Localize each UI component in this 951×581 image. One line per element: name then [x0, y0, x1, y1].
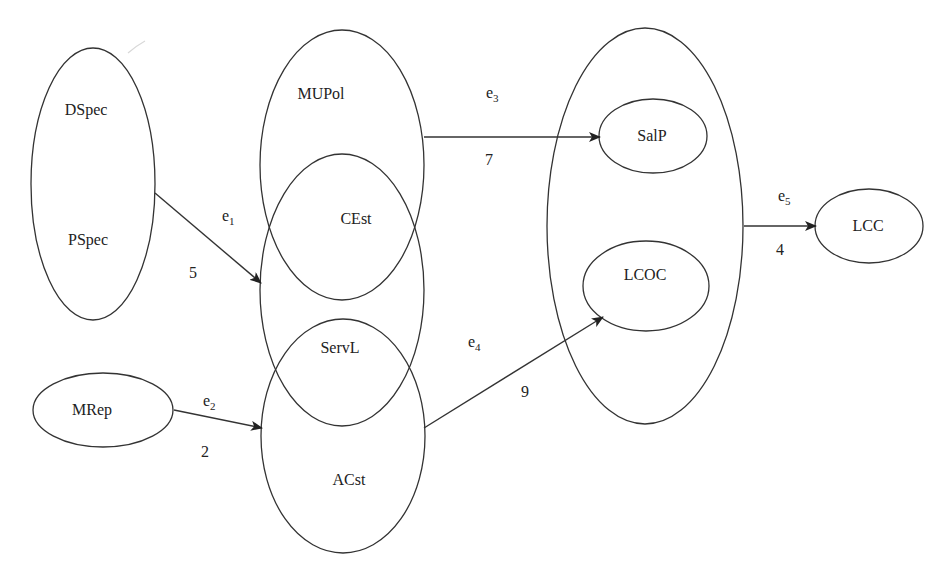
edge-e5: e54: [744, 187, 816, 258]
label-dspec: DSpec: [65, 101, 108, 119]
edge-name-e3: e3: [486, 84, 499, 104]
edge-e2: e22: [174, 392, 262, 460]
edge-e1: e15: [155, 193, 261, 283]
spec-group-ellipse: [31, 48, 155, 320]
edge-name-e1: e1: [222, 207, 235, 227]
label-servl: ServL: [320, 339, 359, 356]
edge-weight-e4: 9: [521, 383, 529, 400]
edge-e3: e37: [424, 84, 600, 168]
label-acst: ACst: [333, 471, 366, 488]
scan-artifact: [128, 41, 145, 53]
node-labels: DSpecPSpecMUPolCEstServLACstMRepSalPLCOC…: [65, 85, 884, 488]
label-cest: CEst: [340, 210, 372, 227]
edge-arrow-e2: [174, 410, 262, 428]
edge-weight-e5: 4: [776, 241, 784, 258]
edge-name-e5: e5: [778, 187, 791, 207]
edge-e4: e49: [424, 317, 603, 428]
edges: e15e22e37e49e54: [155, 84, 816, 460]
edge-arrow-e4: [424, 317, 603, 428]
mupol-group-ellipse: [260, 30, 424, 300]
label-mrep: MRep: [72, 401, 112, 419]
cest-servl-group-ellipse: [260, 154, 424, 426]
diagram-canvas: e15e22e37e49e54 DSpecPSpecMUPolCEstServL…: [0, 0, 951, 581]
label-lcc: LCC: [852, 217, 883, 234]
edge-weight-e1: 5: [189, 264, 197, 281]
output-group-ellipse: [547, 28, 743, 424]
edge-name-e2: e2: [203, 392, 216, 412]
group-ellipses: [31, 28, 743, 553]
diagram-svg: e15e22e37e49e54 DSpecPSpecMUPolCEstServL…: [0, 0, 951, 581]
edge-weight-e2: 2: [201, 443, 209, 460]
edge-weight-e3: 7: [485, 151, 493, 168]
label-lcoc: LCOC: [624, 266, 667, 283]
label-mupol: MUPol: [297, 85, 345, 102]
label-salp: SalP: [637, 127, 666, 144]
edge-arrow-e1: [155, 193, 261, 283]
edge-name-e4: e4: [468, 333, 481, 353]
label-pspec: PSpec: [68, 231, 108, 249]
